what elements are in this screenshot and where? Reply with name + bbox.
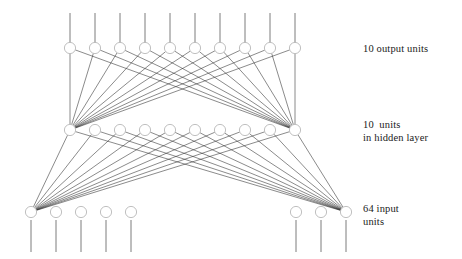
- hidden-layer-label: 10 unitsin hidden layer: [363, 119, 428, 144]
- hidden-to-output-edge-1-5: [199, 52, 290, 127]
- hidden-to-output-edge-1-7: [248, 53, 292, 125]
- output-layer-unit-0: [64, 42, 75, 53]
- input-layer-unit-7: [340, 206, 351, 217]
- input-layer-unit-0: [25, 206, 36, 217]
- output-layer-unit-5: [189, 42, 200, 53]
- input-to-hidden-edge-1-9: [298, 135, 343, 207]
- input-to-hidden-edge-0-5: [36, 133, 190, 210]
- hidden-to-output-edge-0-6: [75, 51, 215, 128]
- hidden-to-output-edge-1-2: [125, 50, 290, 127]
- hidden-to-output-edge-0-7: [75, 50, 240, 127]
- neural-network-diagram: 10 output units 10 unitsin hidden layer …: [0, 0, 462, 259]
- hidden-layer-unit-9: [289, 124, 300, 135]
- input-to-hidden-edge-1-2: [125, 132, 340, 210]
- input-layer-unit-3: [100, 206, 111, 217]
- hidden-label-line-1: in hidden layer: [363, 132, 428, 145]
- output-layer-unit-2: [114, 42, 125, 53]
- output-layer-unit-8: [264, 42, 275, 53]
- hidden-to-output-edge-1-4: [175, 51, 291, 127]
- output-layer-unit-4: [164, 42, 175, 53]
- hidden-to-output-edge-0-1: [72, 53, 94, 124]
- hidden-layer-unit-6: [214, 124, 225, 135]
- input-to-hidden-edge-0-2: [35, 134, 116, 208]
- hidden-label-line-0: 10 units: [363, 119, 428, 132]
- input-layer-label: 64 inputunits: [363, 203, 399, 228]
- unit-nodes-group: [25, 42, 351, 217]
- hidden-to-output-edge-1-8: [272, 53, 294, 124]
- input-to-hidden-edge-0-7: [36, 132, 240, 210]
- hidden-layer-unit-7: [239, 124, 250, 135]
- input-layer-unit-6: [315, 206, 326, 217]
- input-to-hidden-edge-1-0: [75, 132, 340, 211]
- input-to-hidden-edge-0-3: [36, 133, 141, 208]
- input-to-hidden-edge-1-1: [100, 132, 340, 211]
- hidden-layer-unit-2: [114, 124, 125, 135]
- input-layer-unit-2: [75, 206, 86, 217]
- input-to-hidden-edge-0-9: [36, 132, 289, 211]
- output-layer-unit-9: [289, 42, 300, 53]
- output-layer-unit-6: [214, 42, 225, 53]
- input-layer-unit-1: [50, 206, 61, 217]
- hidden-layer-unit-4: [164, 124, 175, 135]
- hidden-layer-unit-0: [64, 124, 75, 135]
- input-layer-unit-4: [125, 206, 136, 217]
- hidden-layer-unit-1: [89, 124, 100, 135]
- output-layer-unit-7: [239, 42, 250, 53]
- hidden-to-output-edge-1-3: [150, 51, 290, 128]
- input-to-hidden-edge-0-1: [34, 134, 91, 207]
- output-layer-unit-3: [139, 42, 150, 53]
- input-to-hidden-edge-0-8: [36, 132, 264, 210]
- input-to-hidden-edge-1-3: [150, 132, 341, 210]
- hidden-to-output-edge-0-2: [73, 53, 117, 125]
- input-to-hidden-edge-1-4: [175, 132, 341, 209]
- hidden-to-output-edge-0-5: [75, 51, 191, 127]
- output-label-line-0: 10 output units: [363, 43, 428, 56]
- input-to-hidden-edge-1-8: [274, 134, 342, 208]
- output-layer-unit-1: [89, 42, 100, 53]
- input-to-hidden-edge-1-6: [225, 133, 342, 209]
- hidden-layer-unit-5: [189, 124, 200, 135]
- output-layer-label: 10 output units: [363, 43, 428, 56]
- input-label-line-1: units: [363, 216, 399, 229]
- input-label-line-0: 64 input: [363, 203, 399, 216]
- hidden-layer-unit-8: [264, 124, 275, 135]
- input-to-hidden-edge-0-4: [36, 133, 165, 209]
- hidden-layer-unit-3: [139, 124, 150, 135]
- input-layer-unit-5: [290, 206, 301, 217]
